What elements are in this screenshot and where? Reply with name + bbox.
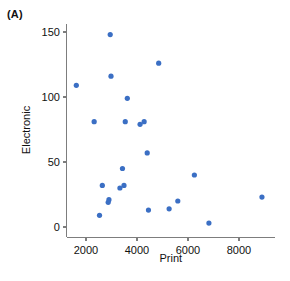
data-point	[156, 61, 161, 66]
data-point	[106, 200, 111, 205]
data-point	[120, 166, 125, 171]
data-point	[167, 206, 172, 211]
y-axis-title: Electronic	[20, 105, 32, 154]
data-point	[146, 208, 151, 213]
figure-panel-a: (A) 0501001502000400060008000 Print Elec…	[0, 0, 290, 281]
x-tick-label: 8000	[227, 244, 251, 256]
y-tick-label: 100	[42, 91, 60, 103]
y-tick-label: 50	[48, 156, 60, 168]
data-point	[123, 119, 128, 124]
data-points	[74, 32, 265, 226]
data-point	[175, 198, 180, 203]
y-tick-label: 150	[42, 26, 60, 38]
data-point	[142, 119, 147, 124]
data-point	[125, 96, 130, 101]
x-tick-label: 4000	[125, 244, 149, 256]
x-axis-title: Print	[159, 252, 182, 264]
data-point	[97, 213, 102, 218]
data-point	[145, 150, 150, 155]
data-point	[259, 195, 264, 200]
data-point	[92, 119, 97, 124]
y-tick-label: 0	[54, 221, 60, 233]
data-point	[206, 221, 211, 226]
x-tick-label: 2000	[74, 244, 98, 256]
data-point	[121, 183, 126, 188]
tick-labels: 0501001502000400060008000	[42, 26, 252, 256]
data-point	[192, 172, 197, 177]
axes	[67, 24, 275, 237]
data-point	[100, 183, 105, 188]
data-point	[108, 74, 113, 79]
data-point	[108, 32, 113, 37]
data-point	[74, 83, 79, 88]
scatter-plot: 0501001502000400060008000 Print Electron…	[0, 0, 290, 281]
